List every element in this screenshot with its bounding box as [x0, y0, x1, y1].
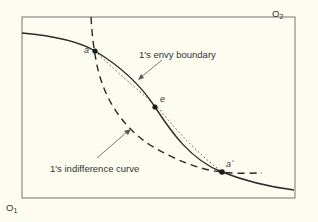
edgeworth-box-diagram	[0, 0, 318, 222]
envy-boundary-label: 1's envy boundary	[139, 50, 216, 60]
point-a-prime-marker	[219, 169, 225, 175]
origin-o1-label: O1	[6, 203, 17, 214]
indifference-arrowhead	[124, 129, 131, 135]
origin-o2-sub: 2	[279, 13, 283, 20]
envy-boundary-arrowhead	[138, 74, 144, 80]
origin-o2-label: O2	[272, 9, 283, 20]
point-a-prime-label: a´	[226, 160, 234, 169]
origin-o1-sub: 1	[13, 207, 17, 214]
indifference-curve-label: 1's indifference curve	[50, 164, 139, 174]
indifference-curve	[91, 17, 262, 173]
point-e-label: e	[160, 95, 165, 104]
point-a-marker	[92, 48, 97, 53]
envy-boundary-arrow	[140, 60, 162, 78]
indifference-arrow	[97, 131, 128, 158]
point-a-label: a	[84, 46, 89, 55]
point-e-marker	[152, 104, 157, 109]
